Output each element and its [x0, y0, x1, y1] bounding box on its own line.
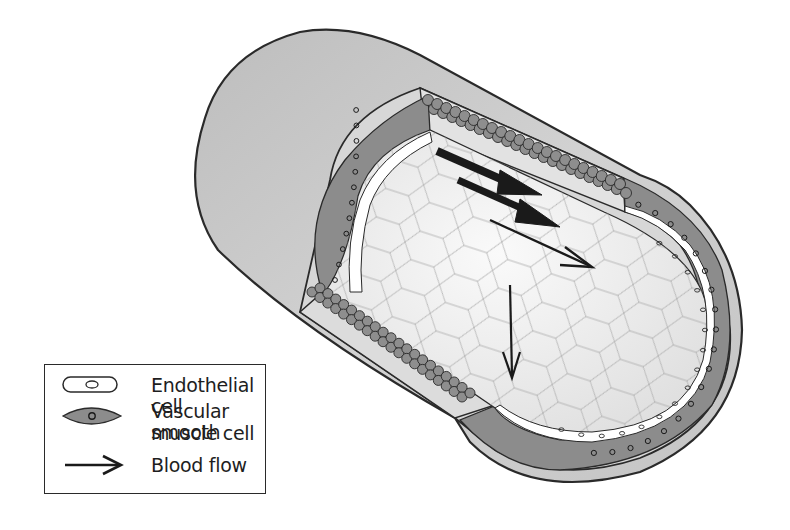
endothelial-cell-icon — [61, 373, 121, 397]
legend-item-smooth-muscle: Vascular smooth muscle cell — [45, 401, 265, 449]
legend-item-blood-flow: Blood flow — [45, 453, 265, 479]
smooth-muscle-cell-icon — [61, 403, 123, 429]
arrow-right-icon — [61, 453, 125, 477]
muscle-cell-cross-section — [465, 388, 475, 398]
muscle-cell-cross-section — [621, 188, 632, 199]
legend-label-blood-flow: Blood flow — [151, 455, 247, 476]
legend-label-smooth-muscle-2: muscle cell — [151, 423, 254, 444]
legend-item-endothelial: Endothelial cell — [45, 373, 265, 397]
legend: Endothelial cell Vascular smooth muscle … — [44, 364, 266, 494]
